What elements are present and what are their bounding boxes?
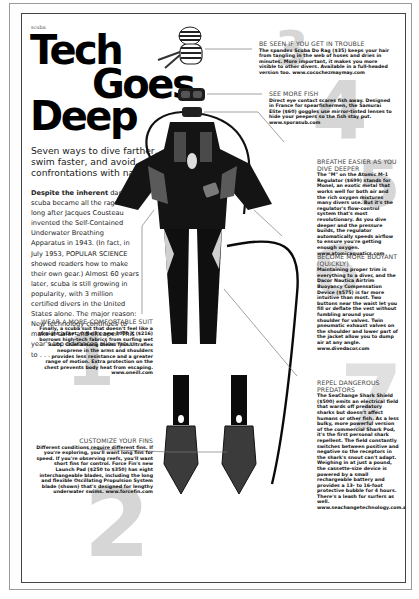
article-page: 1 2 3 4 5 6 7 scuba Tech Goes Deep Seven… [21, 13, 406, 583]
feature-4-copy: Direct eye contact scares fish away. Des… [269, 98, 392, 126]
feature-7: Repel dangerous predators The SeaChange … [317, 380, 399, 511]
goggles-icon [178, 88, 205, 101]
feature-1-heading: Wear a more comfortable suit [35, 319, 153, 326]
feature-3-heading: Be seen if you get in trouble [259, 41, 394, 48]
feature-7-heading: Repel dangerous predators [317, 380, 399, 393]
feature-6-copy: Maintaining proper trim is everything to… [317, 267, 399, 351]
feature-7-copy: The SeaChange Shark Shield ($500) emits … [317, 393, 399, 510]
feature-6-heading: Become more buoyant (quickly) [317, 254, 399, 267]
feature-2: Customize your fins Different conditions… [35, 438, 153, 495]
feature-3-copy: The spandex Scuba Do Rag ($35) keeps you… [259, 48, 394, 76]
feature-3: Be seen if you get in trouble The spande… [259, 41, 394, 76]
feature-5-heading: Breathe easier as you dive deeper [317, 159, 397, 172]
feature-2-heading: Customize your fins [35, 438, 153, 445]
feature-1: Wear a more comfortable suit Finally, a … [35, 319, 153, 376]
feature-4-heading: See more fish [269, 91, 392, 98]
feature-6: Become more buoyant (quickly) Maintainin… [317, 254, 399, 351]
feature-2-copy: Different conditions require different f… [35, 445, 153, 495]
fins-icon [164, 375, 256, 494]
feature-5: Breathe easier as you dive deeper The "M… [317, 159, 397, 256]
feature-1-copy: Finally, a scuba suit that doesn't feel … [35, 326, 153, 376]
feature-5-copy: The "M" on the Atomic M-1 Regulator ($69… [317, 172, 397, 256]
do-rag-icon [158, 27, 202, 68]
feature-4: See more fish Direct eye contact scares … [269, 91, 392, 126]
